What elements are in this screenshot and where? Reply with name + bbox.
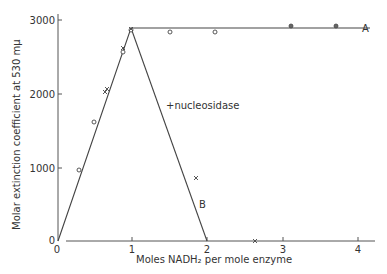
series-b-label: B — [199, 199, 206, 210]
x-ticks: 0 1 2 3 4 — [54, 237, 361, 255]
svg-text:4: 4 — [355, 244, 361, 255]
cross-markers — [103, 27, 257, 243]
series-a-label: A — [362, 23, 369, 34]
nucleosidase-annotation: +nucleosidase — [166, 100, 239, 111]
svg-text:1: 1 — [129, 244, 135, 255]
line-b — [131, 28, 207, 241]
chart: 3000 2000 1000 0 0 1 2 3 4 Moles NADH₂ p… — [0, 0, 387, 274]
svg-text:3000: 3000 — [30, 15, 55, 26]
x-axis-label: Moles NADH₂ per mole enzyme — [136, 254, 292, 265]
svg-text:0: 0 — [54, 244, 60, 255]
filled-circle-markers — [289, 24, 338, 28]
y-ticks: 3000 2000 1000 0 — [30, 15, 62, 246]
y-axis-label: Molar extinction coefficient at 530 mμ — [11, 39, 22, 230]
svg-text:2000: 2000 — [30, 89, 55, 100]
svg-text:1000: 1000 — [30, 163, 55, 174]
line-a — [58, 28, 370, 241]
